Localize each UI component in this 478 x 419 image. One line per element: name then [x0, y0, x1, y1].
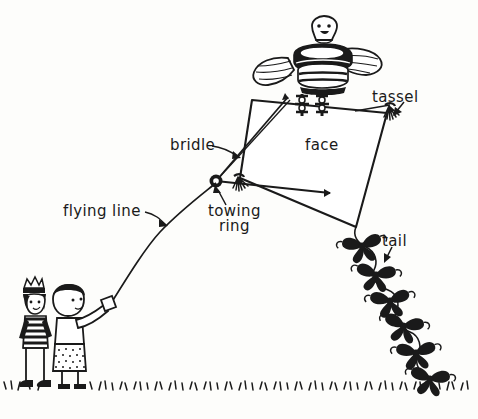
eagle-leg-left: [295, 94, 309, 116]
label-flying-line: flying line: [63, 202, 141, 220]
label-bridle: bridle: [170, 136, 215, 154]
tail-bows: [336, 232, 456, 398]
label-towing-ring: towing ring: [208, 204, 261, 234]
kite-sail: [240, 100, 387, 227]
eagle-leg-right: [315, 94, 329, 116]
label-tail: tail: [382, 232, 407, 250]
label-towing-ring-line2: ring: [208, 219, 261, 234]
child-striped-shirt: [19, 277, 52, 387]
kite-diagram-canvas: bridle flying line towing ring face tass…: [0, 0, 478, 419]
label-face: face: [305, 136, 339, 154]
child-holding-line: [53, 284, 116, 389]
towing-ring: [210, 175, 223, 188]
ground-grass: [4, 381, 468, 390]
label-tassel: tassel: [372, 88, 419, 106]
